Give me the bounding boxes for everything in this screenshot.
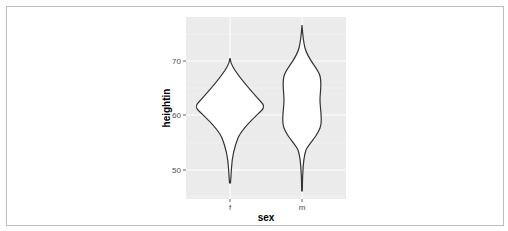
x-axis-title: sex bbox=[258, 212, 275, 223]
x-tick-label-m: m bbox=[299, 203, 306, 212]
y-tick-label-50: 50 bbox=[172, 166, 181, 175]
x-tick-label-f: f bbox=[229, 203, 232, 212]
y-tick-label-60: 60 bbox=[172, 111, 181, 120]
y-axis-ticks bbox=[183, 61, 186, 170]
x-axis-ticks bbox=[230, 199, 302, 202]
y-tick-label-70: 70 bbox=[172, 57, 181, 66]
violin-chart: 70 60 50 f m sex heightin bbox=[0, 0, 508, 231]
y-axis-title: heightin bbox=[161, 89, 172, 128]
